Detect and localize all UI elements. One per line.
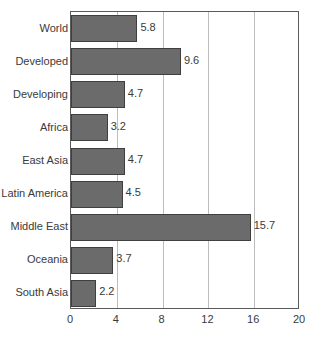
x-tick-0: 0 (67, 313, 73, 325)
x-tick-20: 20 (293, 313, 305, 325)
category-label-middle-east: Middle East (0, 220, 68, 232)
category-label-oceania: Oceania (0, 253, 68, 265)
bar-row (71, 15, 298, 42)
cut-off-title-remnant (196, 0, 306, 4)
bar-world (71, 15, 137, 42)
bar-developing (71, 81, 125, 108)
x-tick-16: 16 (247, 313, 259, 325)
bar-value-label: 4.7 (128, 154, 143, 165)
category-label-latin-america: Latin America (0, 187, 68, 199)
bar-latin-america (71, 181, 123, 208)
x-tick-4: 4 (113, 313, 119, 325)
x-axis-tick-labels: 048121620 (70, 313, 299, 329)
category-label-developing: Developing (0, 88, 68, 100)
bar-developed (71, 48, 181, 75)
bar-oceania (71, 247, 113, 274)
category-axis-labels: WorldDevelopedDevelopingAfricaEast AsiaL… (0, 11, 68, 309)
bar-value-label: 9.6 (184, 55, 199, 66)
bar-east-asia (71, 148, 125, 175)
bar-chart: WorldDevelopedDevelopingAfricaEast AsiaL… (0, 0, 315, 345)
x-tick-8: 8 (159, 313, 165, 325)
bar-value-label: 3.2 (111, 121, 126, 132)
bar-south-asia (71, 280, 96, 307)
x-tick-12: 12 (201, 313, 213, 325)
bar-africa (71, 114, 108, 141)
bar-value-label: 4.5 (126, 187, 141, 198)
bar-value-label: 5.8 (140, 22, 155, 33)
bar-middle-east (71, 214, 251, 241)
bar-row (71, 81, 298, 108)
category-label-south-asia: South Asia (0, 286, 68, 298)
category-label-east-asia: East Asia (0, 154, 68, 166)
bar-value-label: 15.7 (254, 220, 275, 231)
category-label-world: World (0, 22, 68, 34)
bar-row (71, 148, 298, 175)
category-label-africa: Africa (0, 121, 68, 133)
category-label-developed: Developed (0, 55, 68, 67)
bar-value-label: 3.7 (116, 253, 131, 264)
bar-row (71, 247, 298, 274)
bar-row (71, 114, 298, 141)
bar-row (71, 181, 298, 208)
bar-value-label: 2.2 (99, 286, 114, 297)
bar-value-label: 4.7 (128, 88, 143, 99)
